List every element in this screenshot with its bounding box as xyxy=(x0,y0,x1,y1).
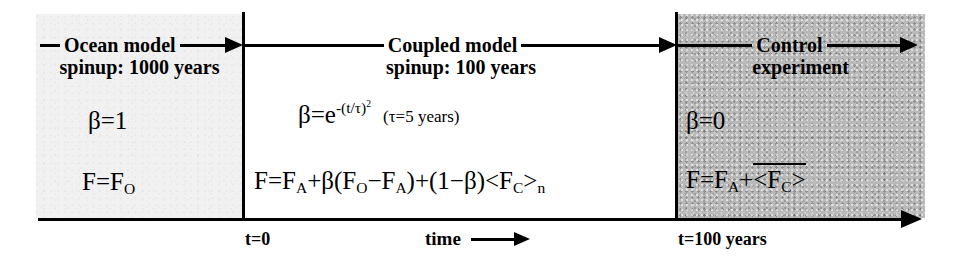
flux-sub-1: A xyxy=(728,178,739,195)
ocean-flux-equation: F=FO xyxy=(82,168,135,196)
flux-part-2: + xyxy=(739,166,753,193)
flux-sub-3: A xyxy=(395,179,406,196)
right-arrow-icon xyxy=(225,37,243,53)
ocean-spinup-header-label: Ocean model xyxy=(60,35,180,56)
axis-tick-label-t0: t=0 xyxy=(245,228,270,250)
tau-note: (τ=5 years) xyxy=(371,107,459,126)
header-rule-right xyxy=(521,44,660,47)
control-flux-equation: F=FA+<FC> xyxy=(686,163,806,194)
coupled-spinup-header-row: Coupled model xyxy=(245,34,677,56)
flux-part-1: F=F xyxy=(254,167,296,194)
beta-head: β=e xyxy=(298,101,336,128)
flux-sub-5: n xyxy=(537,179,545,196)
right-arrow-icon xyxy=(900,37,918,53)
flux-part-2: +β(F xyxy=(307,167,356,194)
control-beta-equation: β=0 xyxy=(686,107,725,135)
flux-part-1: F=F xyxy=(686,166,728,193)
header-rule-left xyxy=(245,44,384,47)
coupled-spinup-header-label: Coupled model xyxy=(384,35,521,56)
header-rule-right xyxy=(827,44,901,47)
time-axis-line xyxy=(38,218,916,221)
flux-ensemble-open: <F xyxy=(753,166,781,193)
flux-subscript: O xyxy=(124,180,135,197)
time-axis-arrow-icon xyxy=(901,210,922,228)
header-rule-right xyxy=(180,44,226,47)
axis-tick-label-t100: t=100 years xyxy=(678,228,767,250)
flux-main: F=F xyxy=(82,168,124,195)
coupled-spinup-subheader-label: spinup: 100 years xyxy=(245,55,677,79)
time-axis-label: time xyxy=(425,228,461,250)
flux-part-5: > xyxy=(523,167,537,194)
ocean-spinup-header-row: Ocean model xyxy=(40,34,243,56)
flux-part-4: )+(1−β)<F xyxy=(407,167,513,194)
control-experiment-subheader-label: experiment xyxy=(678,55,923,79)
header-rule-left xyxy=(40,44,60,47)
flux-ensemble-close: > xyxy=(792,166,806,193)
header-rule-left xyxy=(678,44,752,47)
coupled-beta-equation: β=e-(t/τ)2(τ=5 years) xyxy=(298,101,459,131)
coupled-flux-equation: F=FA+β(FO−FA)+(1−β)<FC>n xyxy=(254,167,545,195)
right-arrow-icon xyxy=(659,37,677,53)
flux-sub-1: A xyxy=(296,179,307,196)
time-direction-arrow-icon xyxy=(514,232,530,246)
flux-sub-2: O xyxy=(356,179,367,196)
beta-exponent: -(t/τ)2 xyxy=(336,99,371,116)
time-direction-rule xyxy=(471,238,515,241)
model-experiment-timeline-figure: Ocean model spinup: 1000 years Coupled m… xyxy=(0,0,955,272)
ocean-beta-equation: β=1 xyxy=(88,107,127,135)
time-axis-label-group: time xyxy=(425,228,530,250)
control-experiment-header-label: Control xyxy=(752,35,826,56)
flux-part-3: −F xyxy=(367,167,395,194)
ocean-spinup-subheader-label: spinup: 1000 years xyxy=(36,55,243,79)
flux-ensemble-sub: C xyxy=(781,178,791,195)
beta-exponent-base: -(t/τ) xyxy=(336,99,366,116)
time-mean-overbar-group: <FC> xyxy=(753,163,805,194)
flux-sub-4: C xyxy=(513,179,523,196)
control-experiment-header-row: Control xyxy=(678,34,918,56)
